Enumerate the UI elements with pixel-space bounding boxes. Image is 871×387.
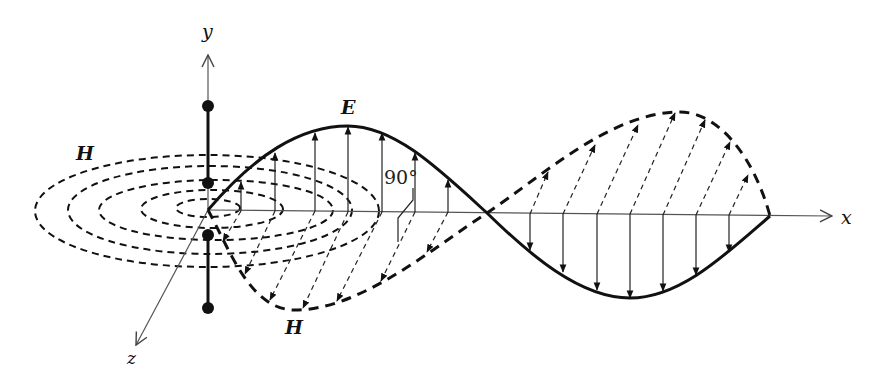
em-wave-diagram: y x z E H H 90° bbox=[0, 0, 871, 387]
dipole-dot-3 bbox=[202, 229, 214, 241]
dipole-dot-2 bbox=[202, 177, 214, 189]
h-field-label-top: H bbox=[75, 142, 95, 164]
y-axis-label: y bbox=[201, 20, 213, 42]
x-axis-label: x bbox=[841, 206, 852, 228]
z-axis-label: z bbox=[126, 348, 137, 368]
e-field-arrows-down bbox=[530, 214, 729, 298]
h-field-label-bottom: H bbox=[284, 316, 304, 338]
dipole-dot-4 bbox=[202, 302, 214, 314]
e-field-label: E bbox=[340, 96, 356, 118]
right-angle-marker bbox=[398, 188, 413, 242]
angle-label: 90° bbox=[384, 166, 418, 188]
h-field-arrows-first bbox=[223, 211, 448, 308]
h-field-arrows-second bbox=[530, 113, 748, 215]
z-axis bbox=[136, 210, 208, 345]
h-ring-2 bbox=[141, 190, 283, 228]
dipole-dot-1 bbox=[202, 100, 214, 112]
x-axis bbox=[208, 210, 832, 216]
